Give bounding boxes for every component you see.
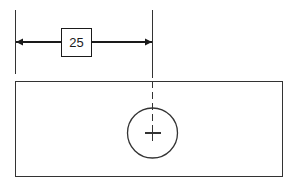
dimension-drawing-svg: 25 <box>0 0 296 190</box>
technical-drawing-canvas: 25 <box>0 0 296 190</box>
part-outline-rectangle <box>16 82 283 177</box>
right-arrowhead-icon <box>145 39 152 46</box>
left-arrowhead-icon <box>16 39 23 46</box>
dimension-value-label: 25 <box>69 35 83 50</box>
